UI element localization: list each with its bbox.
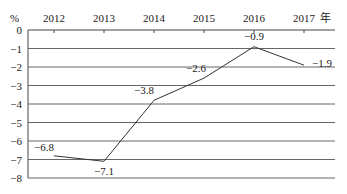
y-axis-ticks: 0−1−2−3−4−5−6−7−8 [10,24,22,184]
data-label: −0.9 [244,30,264,42]
data-label: −1.9 [312,57,332,69]
y-tick-label: −4 [10,98,22,110]
x-tick-label: 2015 [193,12,216,24]
x-tick-label: 2012 [43,12,65,24]
data-label: −2.6 [186,62,206,74]
data-label: −3.8 [134,84,154,96]
y-tick-label: −6 [10,135,22,147]
y-tick-label: −8 [10,172,22,184]
y-tick-label: −3 [10,80,22,92]
x-tick-label: 2016 [243,12,266,24]
line-chart: 0−1−2−3−4−5−6−7−8 2012201320142015201620… [0,0,347,194]
y-tick-label: −1 [10,43,22,55]
y-tick-label: 0 [17,24,23,36]
y-tick-label: −2 [10,61,22,73]
x-axis-unit-label: 年 [320,11,331,24]
gridlines [28,30,335,178]
y-axis-unit-label: % [10,12,19,24]
data-label: −6.8 [34,141,54,153]
x-tick-label: 2013 [93,12,116,24]
chart-canvas: 0−1−2−3−4−5−6−7−8 2012201320142015201620… [0,0,347,194]
x-tick-label: 2017 [293,12,316,24]
data-label: −7.1 [94,165,114,177]
y-tick-label: −5 [10,117,22,129]
x-tick-label: 2014 [143,12,166,24]
y-tick-label: −7 [10,154,22,166]
